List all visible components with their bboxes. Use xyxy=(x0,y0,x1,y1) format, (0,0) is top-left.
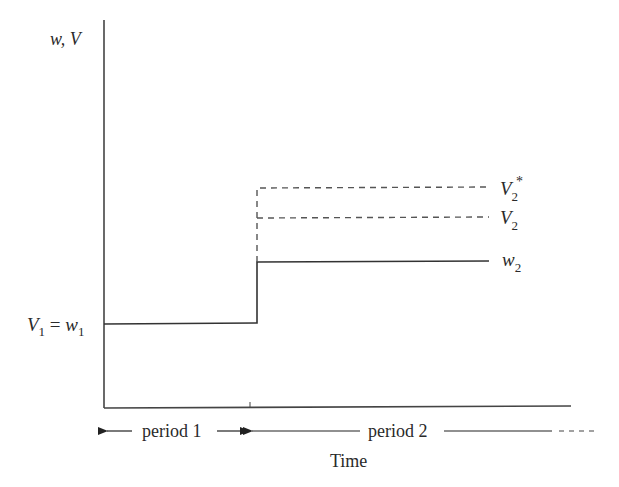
v2-star-dashed-line xyxy=(257,187,489,262)
v1-equals-w1-label: V1 = w1 xyxy=(27,314,85,339)
y-axis-label: w, V xyxy=(50,29,83,49)
period-1-label: period 1 xyxy=(142,421,201,441)
w2-symbol: w xyxy=(502,249,515,270)
wage-path-line xyxy=(104,261,489,324)
v2-dashed-line xyxy=(257,217,489,218)
x-axis xyxy=(104,406,571,408)
w1-symbol: w xyxy=(65,314,78,335)
x-axis-label: Time xyxy=(330,451,367,471)
v2-star-label: V2* xyxy=(500,174,523,204)
v2-star-superscript: * xyxy=(516,174,523,189)
w2-label: w2 xyxy=(502,249,521,275)
w2-subscript: 2 xyxy=(515,260,522,275)
equals-sign: = xyxy=(45,314,65,335)
v2-star-subscript: 2 xyxy=(512,189,519,204)
wage-value-step-diagram: w, V V1 = w1 V2* V2 w2 period 1 period 2… xyxy=(0,0,619,487)
v2-label: V2 xyxy=(500,207,518,233)
period-1-span: period 1 xyxy=(107,421,249,441)
w1-subscript: 1 xyxy=(78,324,85,339)
period-2-label: period 2 xyxy=(368,421,427,441)
v2-subscript: 2 xyxy=(512,218,519,233)
period-2-span: period 2 xyxy=(252,421,594,441)
